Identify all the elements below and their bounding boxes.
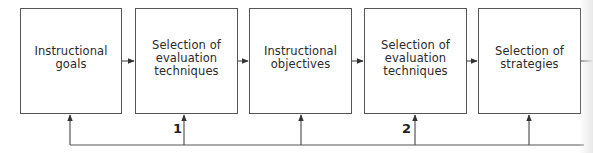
box-label-line: techniques — [152, 65, 221, 78]
box-selection-evaluation-techniques-2: Selection of evaluation techniques — [364, 8, 467, 114]
box-instructional-goals: Instructional goals — [20, 8, 122, 114]
box-instructional-objectives: Instructional objectives — [249, 8, 352, 114]
feedback-label-2: 2 — [402, 121, 411, 136]
feedback-label-1: 1 — [173, 121, 182, 136]
box-selection-evaluation-techniques-1: Selection of evaluation techniques — [135, 8, 238, 114]
box-label-line: goals — [34, 58, 107, 71]
right-edge-shading — [579, 0, 593, 153]
box-label-line: strategies — [495, 58, 564, 71]
box-label-line: techniques — [381, 65, 450, 78]
box-label-line: objectives — [264, 58, 337, 71]
box-selection-strategies: Selection of strategies — [478, 8, 581, 114]
